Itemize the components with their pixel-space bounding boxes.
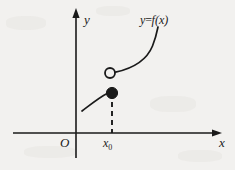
curve-label-argument: (x) [155,13,168,27]
x0-tick-label: x0 [103,137,112,152]
y-axis-label: y [84,13,90,26]
graph-canvas [0,0,235,170]
x0-tick-label-subscript: 0 [108,143,112,152]
curve-label: y=f(x) [140,14,168,26]
origin-label: O [60,136,69,149]
open-circle-marker [105,68,115,78]
right-branch-curve [116,27,159,72]
function-graph-figure: y x O x0 y=f(x) [0,0,235,170]
x-axis-label: x [219,136,225,149]
left-branch-curve [82,93,108,111]
y-axis-arrowhead [72,8,79,18]
filled-circle-marker [106,87,117,98]
